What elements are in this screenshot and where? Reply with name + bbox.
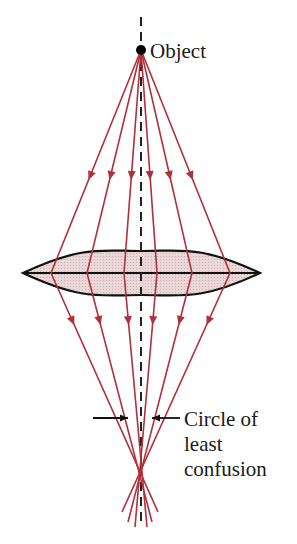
object-point xyxy=(136,45,146,55)
arrowhead-icon xyxy=(149,316,157,325)
arrowhead-icon xyxy=(165,170,173,180)
arrowhead-icon xyxy=(94,315,102,325)
object-label: Object xyxy=(150,39,206,63)
spherical-aberration-diagram: Object Circle of least confusion xyxy=(0,0,297,544)
arrowhead-icon xyxy=(146,171,154,180)
arrowhead-icon xyxy=(108,170,116,180)
circle-label-line1: Circle of xyxy=(184,407,258,431)
circle-label-line2: least xyxy=(184,432,223,456)
arrowhead-icon xyxy=(128,171,136,180)
circle-label-line3: confusion xyxy=(184,457,267,481)
arrowhead-icon xyxy=(177,315,185,325)
